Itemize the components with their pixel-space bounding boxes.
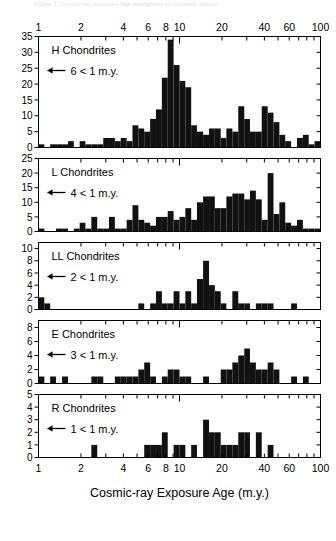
x-tick-label: 60 [283,21,295,33]
x-tick-label: 20 [216,462,228,474]
y-tick-label: 20 [21,79,33,90]
histogram-bar [291,226,297,232]
panel-annotation: 2 < 1 m.y. [71,271,119,283]
histogram-bar [115,141,121,147]
histogram-bar [250,363,256,384]
x-tick-label: 60 [283,462,295,474]
panel-h-chondrites: 05101520253035H Chondrites6 < 1 m.y. [21,31,320,153]
x-tick-label: 6 [145,21,151,33]
y-tick-label: 4 [27,402,33,413]
histogram-bar [168,211,174,231]
histogram-bar [297,220,303,232]
x-tick-label: 8 [163,21,169,33]
histogram-bar [191,220,197,232]
histogram-bar [191,303,197,309]
histogram-bar [74,229,80,232]
histogram-bar [209,128,215,147]
y-tick-label: 6 [27,336,33,347]
x-tick-label: 1 [36,462,42,474]
histogram-bar [268,363,274,384]
histogram-bar [168,303,174,309]
histogram-bar [268,113,274,148]
y-tick-label: 2 [27,364,33,375]
histogram-bar [150,303,156,309]
y-tick-label: 0 [27,452,33,463]
histogram-bar [185,208,191,231]
y-tick-label: 0 [27,304,33,315]
histogram-bar [174,65,180,147]
histogram-bar [226,445,232,458]
panel-title: R Chondrites [52,402,117,414]
y-tick-label: 10 [21,197,33,208]
histogram-bar [156,445,162,458]
histogram-bar [197,279,203,309]
histogram-bar [85,229,91,232]
histogram-bar [262,370,268,384]
histogram-bar [203,420,209,458]
x-axis-title: Cosmic-ray Exposure Age (m.y.) [90,486,269,500]
histogram-bar [156,217,162,232]
histogram-bar [180,445,186,458]
y-tick-label: 25 [21,153,33,164]
histogram-bar [121,377,127,384]
histogram-bar [162,303,168,309]
histogram-bar [56,229,62,232]
histogram-bar [91,377,97,384]
y-tick-label: 5 [27,389,33,400]
y-tick-label: 30 [21,47,33,58]
histogram-bar [162,217,168,232]
histogram-bar [174,220,180,232]
histogram-bar [268,445,274,458]
histogram-bar [39,377,45,384]
histogram-bar [297,138,303,148]
histogram-bar [185,291,191,309]
histogram-bar [226,128,232,147]
y-tick-label: 2 [27,427,33,438]
histogram-bar [138,303,144,309]
histogram-bar [209,432,215,457]
histogram-bar [85,144,91,147]
y-tick-label: 6 [27,268,33,279]
histogram-bar [150,119,156,148]
histogram-bar [97,377,103,384]
y-tick-label: 8 [27,255,33,266]
histogram-bar [162,377,168,384]
histogram-bar [215,432,221,457]
histogram-bar [226,370,232,384]
histogram-bar [115,229,121,232]
histogram-bar [127,220,133,232]
histogram-bar [62,229,68,232]
histogram-bar [279,202,285,231]
panel-ll-chondrites: 0246810LL Chondrites2 < 1 m.y. [21,243,320,316]
histogram-bar [303,229,309,232]
histogram-bar [303,377,309,384]
histogram-bar [62,377,68,384]
histogram-bar [144,445,150,458]
histogram-bar [209,285,215,309]
histogram-bar [256,132,262,148]
histogram-bar [138,220,144,232]
left-arrow-head-icon [48,425,53,431]
x-tick-label: 10 [174,21,186,33]
histogram-bar [121,229,127,232]
y-tick-label: 0 [27,226,33,237]
figure-caption-sliver: Figure 1. Cosmic-ray exposure age histog… [34,0,304,8]
y-tick-label: 4 [27,280,33,291]
histogram-bar [156,291,162,309]
y-tick-label: 2 [27,292,33,303]
histogram-bar [174,291,180,309]
histogram-bar [191,125,197,147]
x-tick-label: 1 [36,21,42,33]
bars [91,420,273,458]
x-tick-label: 100 [312,462,330,474]
panel-e-chondrites: 02468E Chondrites3 < 1 m.y. [27,321,321,390]
histogram-bar [144,132,150,148]
histogram-bar [144,223,150,232]
histogram-bar [256,199,262,231]
histogram-bar [256,432,262,457]
histogram-bar [203,261,209,310]
histogram-bar [244,349,250,384]
left-arrow-head-icon [48,189,53,195]
histogram-bar [91,217,97,232]
y-tick-label: 20 [21,168,33,179]
